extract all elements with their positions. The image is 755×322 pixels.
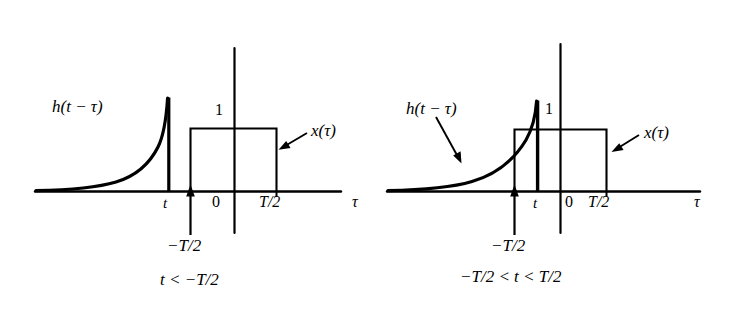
panel-t-between-neg-T-half-and-T-half: h(t − τ) 1 x(τ) t 0 T/2 τ −T/2 −T/2 < t … (378, 0, 755, 322)
tick-label-T-half: T/2 (588, 194, 609, 210)
tick-label-T-half: T/2 (259, 194, 280, 210)
axis-label-tau: τ (352, 194, 358, 210)
impulse-response-label: h(t − τ) (406, 100, 457, 117)
panel-t-less-than-neg-T-half: h(t − τ) 1 x(τ) t 0 T/2 τ −T/2 t < −T/2 (0, 0, 377, 322)
tick-label-zero: 0 (565, 194, 573, 210)
amplitude-label: 1 (215, 102, 223, 118)
tick-label-neg-T-half: −T/2 (491, 237, 525, 254)
axis-label-tau: τ (694, 194, 700, 210)
tick-label-zero: 0 (212, 194, 220, 210)
x-tau-leader-arrow-right (612, 135, 640, 152)
panel-caption-left: t < −T/2 (160, 271, 219, 288)
tick-label-t: t (163, 196, 167, 211)
tick-label-neg-T-half: −T/2 (167, 237, 201, 254)
x-tau-leader-arrow-left (279, 133, 308, 150)
right-panel-graphic (378, 0, 755, 322)
input-signal-label: x(τ) (311, 122, 336, 139)
input-signal-label: x(τ) (644, 124, 669, 141)
h-leader-arrow-right (436, 117, 462, 164)
convolution-figure: h(t − τ) 1 x(τ) t 0 T/2 τ −T/2 t < −T/2 (0, 0, 755, 322)
panel-caption-right: −T/2 < t < T/2 (460, 268, 562, 285)
impulse-response-label: h(t − τ) (52, 98, 103, 115)
tick-label-t: t (533, 196, 537, 211)
amplitude-label: 1 (545, 101, 553, 117)
